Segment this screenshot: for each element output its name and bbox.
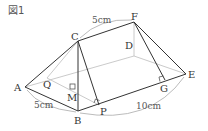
segment-CQ [47,41,78,78]
label-B: B [74,115,81,126]
segment-FG [134,22,165,80]
visible-edges [25,22,186,111]
label-P: P [100,106,107,117]
dimension-BE: 10cm [136,101,161,111]
label-F: F [131,11,138,22]
edge-FE [134,22,186,74]
edge-AD [25,56,134,87]
label-A: A [13,82,22,93]
label-D: D [125,40,133,51]
label-G: G [160,83,168,94]
edge-BE [78,74,186,111]
dimension-AB: 5cm [34,100,54,110]
label-M: M [67,92,77,103]
label-E: E [188,69,195,80]
label-Q: Q [43,79,51,90]
label-C: C [71,31,79,42]
dimension-CF: 5cm [92,15,112,25]
figure-title: 図1 [8,5,24,16]
solid-figure-diagram: 図1 A B C D E F G P Q M 5cm 5cm 10cm [0,0,208,131]
right-angle-marks [70,76,164,103]
right-angle-M [70,84,75,89]
